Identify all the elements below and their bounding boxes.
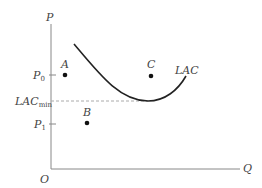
- p0-label: P0: [32, 69, 45, 83]
- point-a: [63, 73, 68, 78]
- y-axis-label: P: [45, 11, 54, 24]
- lac-curve: [74, 44, 186, 101]
- lac-diagram: P Q O P0 LACmin P1 LAC A B C: [0, 0, 262, 188]
- origin-label: O: [40, 173, 49, 186]
- point-b-label: B: [82, 106, 91, 119]
- point-c-label: C: [147, 58, 156, 71]
- point-c: [149, 74, 154, 79]
- p1-label: P1: [33, 118, 46, 132]
- x-axis-label: Q: [243, 162, 252, 175]
- lac-min-label: LACmin: [14, 95, 53, 109]
- point-b: [85, 121, 90, 126]
- lac-curve-label: LAC: [174, 64, 199, 77]
- point-a-label: A: [60, 58, 69, 71]
